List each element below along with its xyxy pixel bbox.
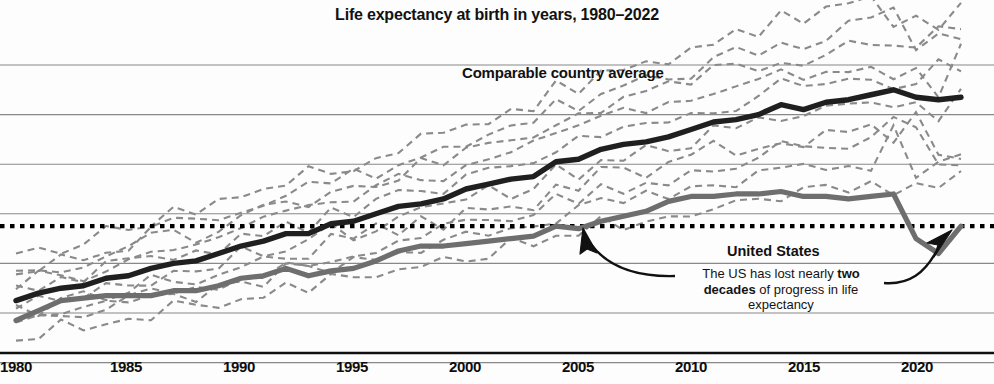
arrowhead-left xyxy=(580,228,597,254)
x-axis-tick-2000: 2000 xyxy=(449,358,481,375)
x-axis-tick-1980: 1980 xyxy=(0,358,32,375)
x-axis-tick-2015: 2015 xyxy=(788,358,820,375)
x-axis-tick-1995: 1995 xyxy=(336,358,368,375)
x-axis-tick-1990: 1990 xyxy=(223,358,255,375)
annotation-note: The US has lost nearly two decades of pr… xyxy=(683,266,879,313)
note-part1: The US has lost nearly xyxy=(702,266,837,281)
label-comparable-country-average: Comparable country average xyxy=(462,64,664,81)
note-part2: of progress in life expectancy xyxy=(748,282,858,313)
chart-container: Life expectancy at birth in years, 1980–… xyxy=(0,0,994,384)
arrow-left-curve xyxy=(590,243,675,276)
label-united-states: United States xyxy=(727,243,820,259)
x-axis-tick-labels: 198019851990199520002005201020152020 xyxy=(0,358,994,384)
arrow-right-curve xyxy=(884,252,936,283)
comparable-country-line xyxy=(16,0,961,254)
x-axis-tick-2020: 2020 xyxy=(901,358,933,375)
gridlines xyxy=(0,65,994,363)
chart-plot-area xyxy=(0,0,994,384)
x-axis-tick-2010: 2010 xyxy=(675,358,707,375)
x-axis-tick-2005: 2005 xyxy=(562,358,594,375)
x-axis-tick-1985: 1985 xyxy=(110,358,142,375)
comparable-country-line xyxy=(16,8,961,275)
